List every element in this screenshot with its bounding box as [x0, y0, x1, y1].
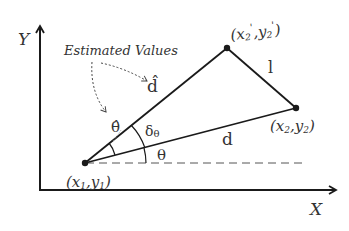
segment-d-hat — [85, 48, 227, 163]
label-d: d — [222, 129, 233, 149]
arc-theta — [144, 148, 146, 163]
label-d-hat: d̂ — [147, 75, 158, 96]
label-theta-hat: θ̂ — [111, 118, 120, 136]
arc-delta-theta — [131, 125, 145, 148]
segment-l — [227, 48, 296, 108]
label-l: l — [268, 58, 273, 77]
label-point-x1-y1: (x1,y1) — [66, 173, 111, 191]
diagram-canvas: Y X (x1,y1) (x2,y2) (x2',y2') d̂ l d θ̂ … — [0, 0, 349, 231]
label-estimated-values: Estimated Values — [63, 43, 178, 58]
label-theta: θ — [157, 146, 166, 164]
arrow-to-theta-hat — [92, 62, 106, 112]
point-x2-y2 — [293, 105, 299, 111]
label-delta-theta: δθ — [145, 123, 159, 139]
label-point-x2prime-y2prime: (x2',y2') — [229, 19, 281, 44]
arrow-to-d-hat — [101, 63, 147, 81]
point-x1-y1 — [82, 160, 88, 166]
label-point-x2-y2: (x2,y2) — [270, 117, 315, 135]
x-axis-label: X — [308, 199, 323, 219]
point-x2prime-y2prime — [224, 45, 230, 51]
y-axis-label: Y — [18, 29, 31, 49]
arc-theta-hat-inner — [109, 143, 115, 155]
